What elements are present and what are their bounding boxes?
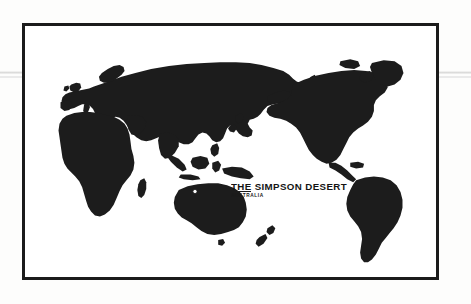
landmass-south-america (346, 176, 402, 262)
landmass-java (179, 174, 201, 180)
landmass-tasmania (218, 239, 225, 246)
page-root: THE SIMPSON DESERT AUSTRALIA (0, 0, 471, 304)
landmass-borneo (191, 156, 210, 170)
landmass-sulawesi (212, 161, 221, 173)
callout-subtitle: AUSTRALIA (231, 194, 345, 199)
landmass-philippines (210, 143, 219, 157)
landmass-new-zealand-north (266, 225, 275, 235)
landmass-ireland (63, 86, 69, 92)
landmass-iberia (60, 100, 72, 111)
landmass-new-zealand-south (256, 234, 268, 247)
landmass-arctic-islands (339, 59, 360, 69)
landmass-madagascar (137, 178, 146, 198)
world-map-canvas (25, 26, 436, 277)
landmass-sumatra (168, 155, 187, 172)
landmass-africa (59, 112, 135, 217)
map-frame-border (22, 23, 439, 280)
landmass-india (158, 132, 179, 158)
landmass-caribbean (350, 162, 364, 169)
callout-title: THE SIMPSON DESERT (231, 183, 347, 192)
landmass-new-guinea (222, 167, 254, 180)
callout-label-block: THE SIMPSON DESERT AUSTRALIA (231, 183, 340, 198)
